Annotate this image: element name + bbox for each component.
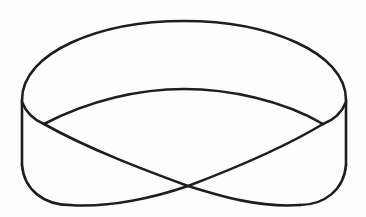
left-inner-rim: [22, 102, 44, 124]
right-twist-strand: [70, 124, 323, 206]
mobius-strip-drawing: [0, 0, 366, 217]
right-bottom-edge: [300, 165, 346, 205]
mobius-strip-figure: Möbius strip line drawing: [0, 0, 366, 217]
right-inner-rim: [323, 102, 346, 124]
left-twist-strand: [44, 124, 300, 205]
left-bottom-edge: [22, 165, 70, 205]
inner-back-edge: [44, 89, 323, 124]
